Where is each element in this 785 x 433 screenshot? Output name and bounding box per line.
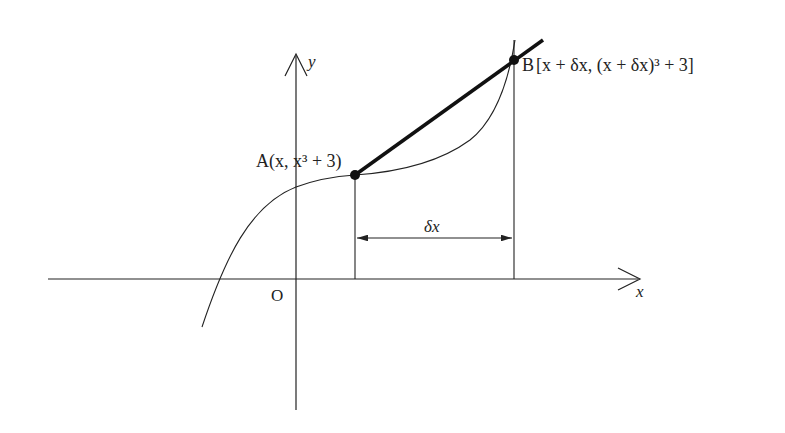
x-axis-label: x	[635, 282, 644, 301]
point-b-label: B[x + δx, (x + δx)³ + 3]	[522, 55, 694, 76]
delta-x-label: δx	[424, 217, 440, 236]
diagram-canvas: y x O A(x, x³ + 3) B[x + δx, (x + δx)³ +…	[0, 0, 785, 433]
x-axis	[48, 268, 640, 290]
cubic-curve	[202, 40, 515, 327]
point-b	[509, 55, 519, 65]
y-axis-label: y	[306, 52, 316, 71]
point-a-label: A(x, x³ + 3)	[256, 151, 342, 172]
origin-label: O	[271, 286, 283, 305]
y-axis	[285, 54, 307, 410]
point-a	[350, 170, 360, 180]
